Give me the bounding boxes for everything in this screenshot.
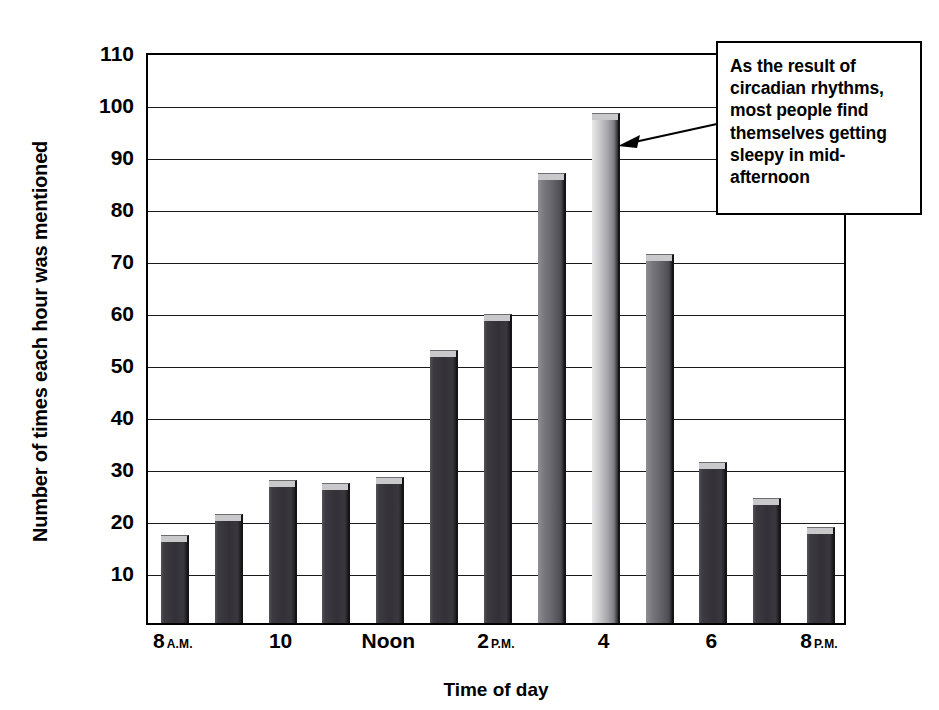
x-tick-label: 4 (598, 630, 610, 651)
y-tick-label: 90 (74, 147, 134, 168)
bar (161, 535, 189, 623)
bar-top-cap (807, 527, 835, 534)
y-tick-label: 60 (74, 303, 134, 324)
bar-top-cap (538, 173, 566, 180)
x-tick-label-suffix: P.M. (814, 637, 838, 651)
bar (699, 462, 727, 623)
x-tick-label: 6 (706, 630, 718, 651)
x-tick-label: 8P.M. (800, 630, 838, 651)
bar-body (430, 355, 458, 623)
bar-body (484, 319, 512, 623)
bar-top-cap (322, 483, 350, 490)
x-tick-label-main: 10 (269, 629, 292, 652)
bar-chart-figure: Number of times each hour was mentioned … (0, 0, 939, 710)
bar (646, 254, 674, 623)
callout-box: As the result of circadian rhythms, most… (716, 41, 922, 215)
x-tick-label-main: Noon (361, 629, 415, 652)
bar-body (592, 118, 620, 623)
y-tick-label: 10 (74, 563, 134, 584)
y-tick-label: 110 (74, 43, 134, 64)
bar (484, 314, 512, 623)
bar-top-cap (376, 477, 404, 484)
x-tick-label-main: 6 (706, 629, 718, 652)
bar (376, 477, 404, 623)
bar-body (322, 488, 350, 623)
bar (430, 350, 458, 623)
bar-body (753, 503, 781, 623)
bar-body (269, 485, 297, 623)
x-tick-label-main: 2 (477, 629, 489, 652)
bar-top-cap (484, 314, 512, 321)
y-tick-label: 30 (74, 459, 134, 480)
x-axis-title: Time of day (146, 679, 846, 701)
callout-text: As the result of circadian rhythms, most… (730, 55, 910, 188)
x-tick-label-suffix: A.M. (167, 637, 193, 651)
bar (269, 480, 297, 623)
bar-body (646, 259, 674, 623)
bar (538, 173, 566, 623)
bar-top-cap (269, 480, 297, 487)
y-tick-label: 40 (74, 407, 134, 428)
y-tick-label: 100 (74, 95, 134, 116)
gridline (148, 263, 844, 264)
y-tick-label: 70 (74, 251, 134, 272)
bar (753, 498, 781, 623)
bar-top-cap (215, 514, 243, 521)
bar-body (161, 540, 189, 623)
bar-top-cap (753, 498, 781, 505)
y-axis-tick-labels: 110100908070605040302010 (72, 53, 134, 625)
y-tick-label: 80 (74, 199, 134, 220)
y-tick-label: 20 (74, 511, 134, 532)
y-axis-title: Number of times each hour was mentioned (29, 62, 52, 622)
bar (807, 527, 835, 623)
bar-top-cap (699, 462, 727, 469)
bar-body (807, 532, 835, 623)
x-tick-label: 8A.M. (153, 630, 193, 651)
x-tick-label-main: 8 (800, 629, 812, 652)
x-axis-tick-labels: 8A.M.10Noon2P.M.468P.M. (146, 630, 846, 664)
bar-top-cap (592, 113, 620, 120)
bar-body (215, 519, 243, 623)
x-tick-label-suffix: P.M. (491, 637, 515, 651)
x-tick-label-main: 4 (598, 629, 610, 652)
x-tick-label-main: 8 (153, 629, 165, 652)
y-tick-label: 50 (74, 355, 134, 376)
bar-top-cap (430, 350, 458, 357)
bar (215, 514, 243, 623)
bar (322, 483, 350, 623)
bar-body (376, 482, 404, 623)
bar (592, 113, 620, 623)
bar-body (538, 178, 566, 623)
bar-body (699, 467, 727, 623)
bar-top-cap (646, 254, 674, 261)
x-tick-label: 2P.M. (477, 630, 515, 651)
x-tick-label: 10 (269, 630, 292, 651)
x-tick-label: Noon (361, 630, 415, 651)
bar-top-cap (161, 535, 189, 542)
